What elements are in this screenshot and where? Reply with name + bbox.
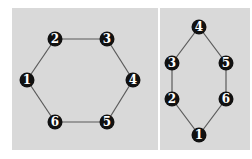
node-label: 5: [103, 115, 111, 129]
diagram-canvas: 123456435261: [0, 0, 252, 159]
node-label: 5: [222, 56, 230, 70]
node-label: 2: [51, 32, 59, 46]
graph-node-6: 6: [48, 115, 63, 130]
node-label: 3: [103, 32, 111, 46]
node-label: 3: [168, 56, 176, 70]
graph-node-1: 1: [192, 128, 207, 143]
graph-node-4: 4: [126, 73, 141, 88]
node-label: 6: [222, 92, 230, 106]
graph-node-5: 5: [100, 115, 115, 130]
node-label: 4: [195, 20, 203, 34]
graph-node-5: 5: [219, 56, 234, 71]
graph-node-4: 4: [192, 20, 207, 35]
node-label: 1: [23, 73, 31, 87]
hexagon-graph: 123456: [12, 8, 158, 150]
graph-node-2: 2: [48, 32, 63, 47]
graph-node-3: 3: [165, 56, 180, 71]
node-label: 6: [51, 115, 59, 129]
graph-node-3: 3: [100, 32, 115, 47]
node-label: 2: [168, 92, 176, 106]
graph-node-6: 6: [219, 92, 234, 107]
node-label: 1: [195, 128, 203, 142]
node-label: 4: [129, 73, 137, 87]
graph-node-1: 1: [20, 73, 35, 88]
graph-node-2: 2: [165, 92, 180, 107]
elongated-hexagon-graph: 435261: [160, 8, 250, 150]
